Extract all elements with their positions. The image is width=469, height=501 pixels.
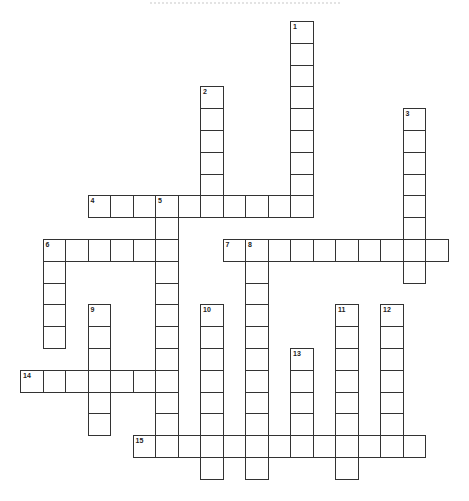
crossword-cell[interactable] — [155, 348, 179, 371]
crossword-cell[interactable] — [178, 195, 202, 218]
crossword-cell[interactable]: 4 — [88, 195, 112, 218]
crossword-cell[interactable] — [245, 195, 269, 218]
crossword-cell[interactable] — [290, 65, 314, 88]
crossword-cell[interactable] — [133, 239, 157, 262]
crossword-cell[interactable] — [133, 370, 157, 393]
crossword-cell[interactable] — [245, 392, 269, 415]
crossword-cell[interactable]: 2 — [200, 86, 224, 109]
crossword-cell[interactable] — [245, 370, 269, 393]
crossword-cell[interactable] — [290, 108, 314, 131]
crossword-cell[interactable] — [335, 435, 359, 458]
crossword-cell[interactable] — [290, 370, 314, 393]
crossword-cell[interactable] — [403, 435, 427, 458]
crossword-cell[interactable] — [178, 435, 202, 458]
crossword-cell[interactable] — [155, 326, 179, 349]
crossword-cell[interactable] — [155, 413, 179, 436]
crossword-cell[interactable] — [425, 239, 449, 262]
crossword-cell[interactable] — [200, 457, 224, 480]
crossword-cell[interactable] — [43, 370, 67, 393]
crossword-cell[interactable] — [200, 152, 224, 175]
crossword-cell[interactable] — [290, 174, 314, 197]
crossword-cell[interactable] — [335, 413, 359, 436]
crossword-cell[interactable] — [358, 435, 382, 458]
crossword-cell[interactable] — [223, 435, 247, 458]
crossword-cell[interactable] — [290, 392, 314, 415]
crossword-cell[interactable] — [88, 413, 112, 436]
crossword-cell[interactable] — [358, 239, 382, 262]
crossword-cell[interactable] — [403, 195, 427, 218]
crossword-cell[interactable] — [88, 370, 112, 393]
crossword-cell[interactable] — [403, 130, 427, 153]
crossword-cell[interactable]: 3 — [403, 108, 427, 131]
crossword-cell[interactable] — [268, 195, 292, 218]
crossword-cell[interactable] — [313, 239, 337, 262]
crossword-cell[interactable] — [335, 457, 359, 480]
crossword-cell[interactable] — [155, 370, 179, 393]
crossword-cell[interactable]: 15 — [133, 435, 157, 458]
crossword-cell[interactable] — [200, 108, 224, 131]
crossword-cell[interactable] — [200, 195, 224, 218]
crossword-cell[interactable] — [245, 435, 269, 458]
crossword-cell[interactable] — [155, 304, 179, 327]
crossword-cell[interactable] — [245, 283, 269, 306]
crossword-cell[interactable]: 12 — [380, 304, 404, 327]
crossword-cell[interactable]: 7 — [223, 239, 247, 262]
crossword-cell[interactable] — [290, 130, 314, 153]
crossword-cell[interactable] — [245, 348, 269, 371]
crossword-cell[interactable] — [88, 326, 112, 349]
crossword-cell[interactable] — [380, 392, 404, 415]
crossword-cell[interactable] — [110, 195, 134, 218]
crossword-cell[interactable] — [43, 326, 67, 349]
crossword-cell[interactable] — [200, 370, 224, 393]
crossword-cell[interactable] — [380, 239, 404, 262]
crossword-cell[interactable] — [403, 174, 427, 197]
crossword-cell[interactable] — [335, 348, 359, 371]
crossword-cell[interactable] — [43, 283, 67, 306]
crossword-cell[interactable] — [223, 195, 247, 218]
crossword-cell[interactable] — [335, 239, 359, 262]
crossword-cell[interactable]: 8 — [245, 239, 269, 262]
crossword-cell[interactable] — [268, 239, 292, 262]
crossword-cell[interactable] — [335, 392, 359, 415]
crossword-cell[interactable] — [200, 413, 224, 436]
crossword-cell[interactable] — [155, 217, 179, 240]
crossword-cell[interactable] — [43, 261, 67, 284]
crossword-cell[interactable] — [245, 413, 269, 436]
crossword-cell[interactable] — [133, 195, 157, 218]
crossword-cell[interactable] — [268, 435, 292, 458]
crossword-cell[interactable]: 9 — [88, 304, 112, 327]
crossword-cell[interactable] — [245, 304, 269, 327]
crossword-cell[interactable]: 13 — [290, 348, 314, 371]
crossword-cell[interactable] — [65, 370, 89, 393]
crossword-cell[interactable] — [380, 348, 404, 371]
crossword-cell[interactable] — [155, 435, 179, 458]
crossword-cell[interactable] — [403, 239, 427, 262]
crossword-cell[interactable] — [155, 261, 179, 284]
crossword-cell[interactable] — [403, 261, 427, 284]
crossword-cell[interactable] — [200, 130, 224, 153]
crossword-cell[interactable] — [290, 86, 314, 109]
crossword-cell[interactable] — [290, 435, 314, 458]
crossword-cell[interactable] — [245, 261, 269, 284]
crossword-cell[interactable] — [403, 152, 427, 175]
crossword-cell[interactable] — [290, 195, 314, 218]
crossword-cell[interactable] — [380, 370, 404, 393]
crossword-cell[interactable] — [155, 283, 179, 306]
crossword-cell[interactable] — [65, 239, 89, 262]
crossword-cell[interactable] — [380, 435, 404, 458]
crossword-cell[interactable] — [200, 326, 224, 349]
crossword-cell[interactable] — [380, 413, 404, 436]
crossword-cell[interactable] — [403, 217, 427, 240]
crossword-cell[interactable] — [245, 457, 269, 480]
crossword-cell[interactable] — [88, 239, 112, 262]
crossword-cell[interactable] — [88, 348, 112, 371]
crossword-cell[interactable] — [290, 43, 314, 66]
crossword-cell[interactable]: 10 — [200, 304, 224, 327]
crossword-cell[interactable] — [335, 370, 359, 393]
crossword-cell[interactable]: 1 — [290, 21, 314, 44]
crossword-cell[interactable] — [200, 392, 224, 415]
crossword-cell[interactable] — [155, 392, 179, 415]
crossword-cell[interactable] — [43, 304, 67, 327]
crossword-cell[interactable] — [290, 413, 314, 436]
crossword-cell[interactable] — [245, 326, 269, 349]
